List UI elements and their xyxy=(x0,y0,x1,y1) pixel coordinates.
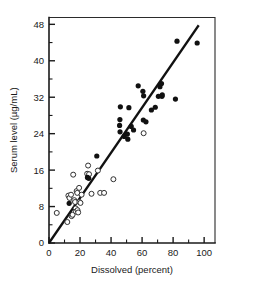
x-tick-label: 100 xyxy=(196,247,212,258)
data-point-filled xyxy=(131,127,136,132)
data-point-filled xyxy=(125,137,130,142)
y-tick-label: 32 xyxy=(33,92,44,103)
x-axis-title: Dissolved (percent) xyxy=(91,264,173,275)
data-point-open xyxy=(76,210,81,215)
data-point-open xyxy=(71,172,76,177)
data-point-filled xyxy=(173,96,178,101)
scatter-plot-figure: 081624324048020406080100Dissolved (perce… xyxy=(0,0,258,286)
y-tick-label: 24 xyxy=(33,128,44,139)
data-point-open xyxy=(65,220,70,225)
x-tick-label: 40 xyxy=(106,247,117,258)
chart-canvas: 081624324048020406080100Dissolved (perce… xyxy=(0,0,258,286)
data-point-filled xyxy=(94,153,99,158)
data-point-filled xyxy=(174,39,179,44)
data-point-open xyxy=(69,192,74,197)
data-point-filled xyxy=(140,89,145,94)
data-point-filled xyxy=(160,92,165,97)
data-point-open xyxy=(89,191,94,196)
y-tick-label: 8 xyxy=(39,201,44,212)
x-tick-label: 20 xyxy=(75,247,86,258)
y-tick-label: 0 xyxy=(39,237,44,248)
data-point-filled xyxy=(195,40,200,45)
y-axis-title-group: Serum level (µg/mL) xyxy=(8,87,19,173)
y-tick-label: 48 xyxy=(33,19,44,30)
data-point-filled xyxy=(86,176,91,181)
data-point-open xyxy=(79,192,84,197)
x-tick-label: 0 xyxy=(46,247,51,258)
data-point-filled xyxy=(126,105,131,110)
y-axis-title: Serum level (µg/mL) xyxy=(8,87,19,173)
data-point-open xyxy=(102,190,107,195)
data-point-open xyxy=(141,131,146,136)
data-point-filled xyxy=(117,117,122,122)
data-point-filled xyxy=(125,132,130,137)
data-point-filled xyxy=(159,81,164,86)
data-point-open xyxy=(95,168,100,173)
x-tick-label: 80 xyxy=(168,247,179,258)
data-point-filled xyxy=(153,105,158,110)
data-point-filled xyxy=(118,104,123,109)
data-point-filled xyxy=(141,93,146,98)
y-tick-label: 40 xyxy=(33,55,44,66)
data-point-filled xyxy=(117,123,122,128)
data-point-open xyxy=(86,163,91,168)
y-tick-label: 16 xyxy=(33,165,44,176)
data-point-filled xyxy=(67,201,72,206)
data-point-open xyxy=(77,185,82,190)
data-point-filled xyxy=(143,119,148,124)
data-point-open xyxy=(111,177,116,182)
data-point-open xyxy=(78,200,83,205)
x-tick-label: 60 xyxy=(137,247,148,258)
data-point-filled xyxy=(136,83,141,88)
data-point-filled xyxy=(117,129,122,134)
data-point-open xyxy=(54,210,59,215)
